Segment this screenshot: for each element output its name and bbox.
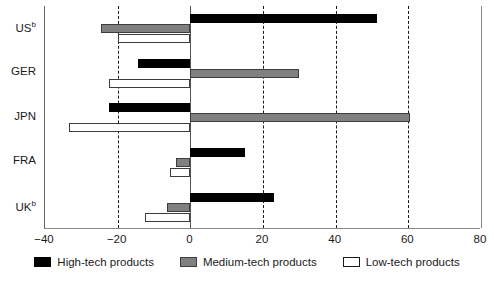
bar-group-ger — [45, 51, 480, 96]
y-axis-label-fra: FRA — [0, 154, 36, 166]
legend-label: Low-tech products — [366, 256, 460, 268]
chart-container: USbGERJPNFRAUKb −40−20020406080 High-tec… — [0, 0, 494, 284]
bar-us-high-tech — [190, 14, 377, 23]
bar-us-medium-tech — [101, 24, 190, 33]
chart-legend: High-tech productsMedium-tech productsLo… — [0, 256, 494, 268]
x-axis-tick-20: 20 — [256, 233, 269, 245]
bar-ger-medium-tech — [190, 69, 299, 78]
bar-group-uk — [45, 184, 480, 229]
x-axis-tick--40: −40 — [34, 233, 54, 245]
bar-fra-high-tech — [190, 148, 245, 157]
y-axis-label-ger: GER — [0, 65, 36, 77]
bar-group-us — [45, 6, 480, 51]
legend-label: Medium-tech products — [203, 256, 317, 268]
bar-jpn-low-tech — [69, 123, 191, 132]
x-axis-tick--20: −20 — [107, 233, 127, 245]
y-axis-label-jpn: JPN — [0, 110, 36, 122]
y-axis-label-uk: UKb — [0, 199, 36, 213]
bar-group-fra — [45, 140, 480, 185]
bar-uk-high-tech — [190, 193, 274, 202]
bar-uk-low-tech — [145, 213, 190, 222]
legend-swatch-high-tech-icon — [34, 257, 51, 267]
plot-inner — [45, 6, 480, 228]
x-axis-tick-80: 80 — [474, 233, 487, 245]
bar-jpn-high-tech — [109, 103, 191, 112]
y-axis-label-us: USb — [0, 20, 36, 34]
bar-ger-high-tech — [138, 59, 191, 68]
legend-item-medium-tech[interactable]: Medium-tech products — [180, 256, 317, 268]
gridline-80 — [481, 6, 482, 228]
bar-jpn-medium-tech — [190, 113, 410, 122]
bar-us-low-tech — [118, 34, 191, 43]
x-axis-tick-40: 40 — [328, 233, 341, 245]
bar-fra-medium-tech — [176, 158, 191, 167]
bar-group-jpn — [45, 95, 480, 140]
bar-ger-low-tech — [109, 79, 191, 88]
legend-swatch-low-tech-icon — [343, 257, 360, 267]
legend-item-low-tech[interactable]: Low-tech products — [343, 256, 460, 268]
bar-uk-medium-tech — [167, 203, 191, 212]
bar-fra-low-tech — [170, 168, 190, 177]
x-axis-tick-0: 0 — [186, 233, 192, 245]
x-axis-tick-60: 60 — [401, 233, 414, 245]
legend-swatch-medium-tech-icon — [180, 257, 197, 267]
plot-area — [44, 6, 480, 229]
legend-item-high-tech[interactable]: High-tech products — [34, 256, 154, 268]
legend-label: High-tech products — [57, 256, 154, 268]
